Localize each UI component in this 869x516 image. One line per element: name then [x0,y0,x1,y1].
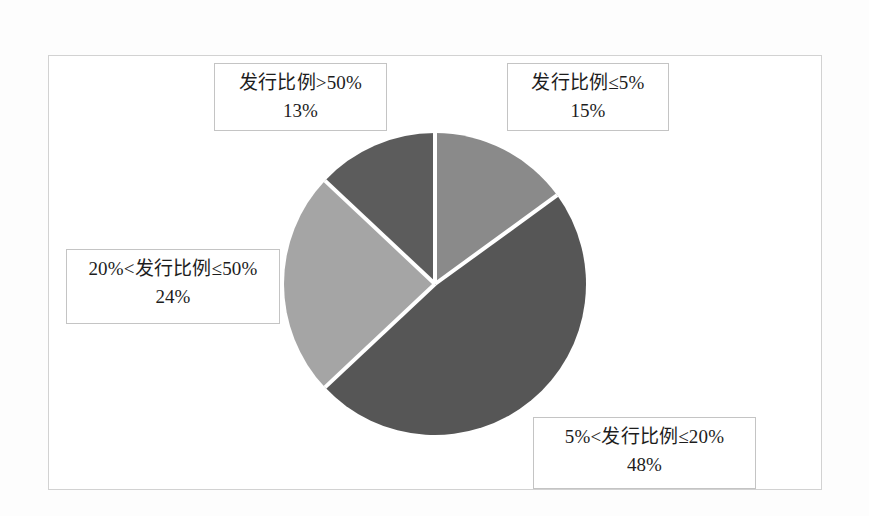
pie-label-5to20-value: 48% [534,452,755,477]
pie-label-20to50-title: 20%<发行比例≤50% [67,256,279,281]
pie-label-5to20-title: 5%<发行比例≤20% [534,424,755,449]
pie-label-gt50: 发行比例>50% 13% [214,63,387,131]
pie-label-20to50: 20%<发行比例≤50% 24% [66,249,280,324]
pie-label-le5: 发行比例≤5% 15% [507,63,669,131]
chart-frame: 发行比例>50% 13% 发行比例≤5% 15% 20%<发行比例≤50% 24… [48,55,822,490]
pie-label-le5-title: 发行比例≤5% [508,70,668,95]
pie-label-gt50-value: 13% [215,98,386,123]
pie-label-le5-value: 15% [508,98,668,123]
pie-label-gt50-title: 发行比例>50% [215,70,386,95]
pie-label-20to50-value: 24% [67,284,279,309]
pie-label-5to20: 5%<发行比例≤20% 48% [533,417,756,489]
